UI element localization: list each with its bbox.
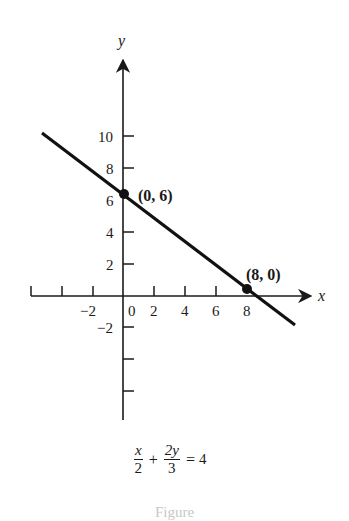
figure-caption: Figure [0,504,349,521]
point-y-intercept [119,189,129,199]
x-tick-label: −2 [80,303,96,319]
y-tick-label: 8 [106,161,114,177]
y-tick-label: 10 [98,129,113,145]
x-tick-label: 8 [243,303,251,319]
fraction-denominator: 2 [135,460,143,476]
fraction-numerator: x [134,443,143,460]
y-tick-label: 6 [106,193,114,209]
x-tick-label: 2 [150,303,158,319]
x-tick-label: 0 [128,303,136,319]
point-label-x-intercept: (8, 0) [246,266,281,284]
equation: x 2 + 2y 3 = 4 [132,443,206,476]
equation-rhs: 4 [199,451,207,468]
fraction-2y-over-3: 2y 3 [164,443,180,476]
fraction-x-over-2: x 2 [134,443,143,476]
y-tick-label: 2 [106,257,114,273]
point-label-y-intercept: (0, 6) [138,187,173,205]
x-tick-label: 6 [212,303,220,319]
fraction-numerator: 2y [164,443,180,460]
y-axis-ticks [123,136,134,391]
y-axis-label: y [116,32,126,50]
y-tick-label: 4 [106,225,114,241]
equals-sign: = [186,451,195,469]
x-axis-label: x [317,287,325,304]
plus-sign: + [149,451,158,469]
x-tick-label: 4 [181,303,189,319]
point-x-intercept [242,284,252,294]
y-tick-label: −2 [97,320,113,336]
fraction-denominator: 3 [168,460,176,476]
